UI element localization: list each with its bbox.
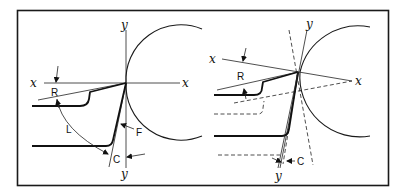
right-r-arrow-bottom <box>244 89 246 99</box>
right-x-axis-label-left: x <box>209 52 216 66</box>
right-rake-angle-label: R <box>237 71 244 82</box>
tool-geometry-diagram: x x y y R L F C <box>0 0 406 196</box>
left-flank-label: F <box>136 127 142 138</box>
left-x-axis-label-left: x <box>30 76 37 90</box>
left-r-arrow-top <box>56 66 58 82</box>
right-panel: x x y y R C <box>209 17 370 183</box>
left-panel: x x y y R L F C <box>30 18 202 181</box>
left-workpiece-arc <box>126 25 202 140</box>
left-c-arrow <box>127 154 145 157</box>
right-clearance-angle-label: C <box>297 156 304 167</box>
figure-frame <box>18 11 389 186</box>
right-x-axis-label-right: x <box>355 74 362 88</box>
right-y-axis-label-bottom: y <box>274 169 282 183</box>
left-f-leader <box>121 124 134 129</box>
right-flank-reference-line <box>278 72 298 168</box>
right-y-axis-label-top: y <box>305 17 313 31</box>
left-x-axis-label-right: x <box>182 76 189 90</box>
left-rake-angle-label: R <box>51 87 58 98</box>
left-clearance-angle-label: C <box>113 154 120 165</box>
left-y-axis-label-bottom: y <box>120 167 128 181</box>
left-tool-rake-face <box>32 83 126 106</box>
right-tool-rake-face-dashed <box>214 101 264 114</box>
right-r-arrow-top <box>243 48 246 61</box>
left-y-axis-label-top: y <box>120 18 128 32</box>
right-tool-rake-face <box>214 72 298 95</box>
left-lip-angle-label: L <box>66 124 72 135</box>
